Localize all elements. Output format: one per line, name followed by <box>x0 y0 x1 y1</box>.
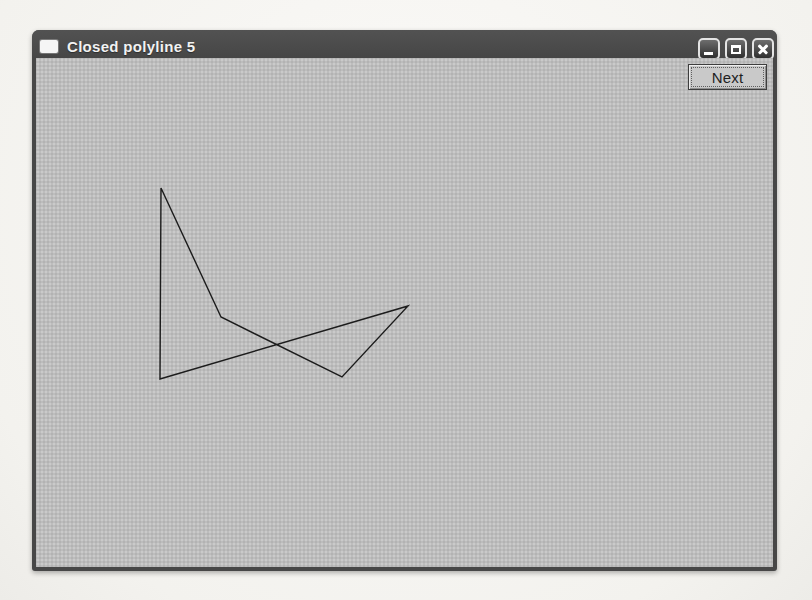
close-icon <box>756 42 770 56</box>
titlebar[interactable]: Closed polyline 5 <box>32 30 777 60</box>
next-button[interactable]: Next <box>688 64 767 90</box>
maximize-icon <box>731 45 741 54</box>
close-button[interactable] <box>752 38 774 60</box>
minimize-button[interactable] <box>698 38 720 60</box>
app-icon[interactable] <box>40 40 58 53</box>
maximize-button[interactable] <box>725 38 747 60</box>
polyline-shape <box>160 188 408 379</box>
app-window: Closed polyline 5 Next <box>32 30 777 571</box>
window-controls <box>698 38 774 60</box>
minimize-icon <box>704 52 713 55</box>
client-area: Next <box>36 58 773 567</box>
drawing-canvas <box>36 58 773 567</box>
next-button-label: Next <box>712 69 744 86</box>
window-title: Closed polyline 5 <box>67 38 195 55</box>
